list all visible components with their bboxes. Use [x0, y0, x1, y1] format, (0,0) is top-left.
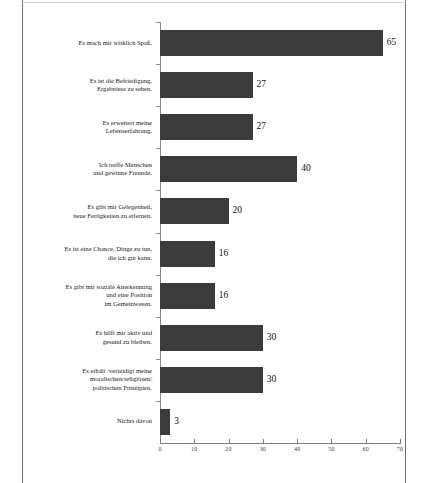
- x-axis-tick: [229, 439, 230, 444]
- bar-value-label: 16: [219, 249, 229, 259]
- x-axis-tick: [366, 439, 367, 444]
- bar-value-label: 16: [219, 291, 229, 301]
- y-axis-tick: [156, 22, 161, 23]
- y-axis-tick: [156, 317, 161, 318]
- y-axis-tick: [156, 148, 161, 149]
- category-label: Es ist eine Chance, Dinge zu tun, die ic…: [64, 245, 152, 262]
- bar-value-label: 3: [174, 417, 179, 427]
- x-axis-tick: [194, 439, 195, 444]
- y-axis-tick: [156, 106, 161, 107]
- bar-value-label: 27: [257, 122, 267, 132]
- bar: [160, 30, 383, 56]
- bar-value-label: 65: [387, 38, 397, 48]
- x-axis-tick-label: 30: [248, 446, 278, 452]
- x-axis-tick-label: 70: [385, 446, 415, 452]
- bar: [160, 114, 253, 140]
- bar-value-label: 20: [233, 206, 243, 216]
- x-axis-tick: [400, 439, 401, 444]
- category-label: Ich treffe Menschen und gewinne Freunde.: [93, 161, 152, 178]
- x-axis-tick-label: 60: [351, 446, 381, 452]
- y-axis-tick: [156, 233, 161, 234]
- category-label: Nichts davon: [117, 417, 152, 426]
- bar: [160, 325, 263, 351]
- bar: [160, 367, 263, 393]
- bar: [160, 283, 215, 309]
- category-label: Es hilft mir aktiv und gesund zu bleiben…: [96, 329, 152, 346]
- bar-value-label: 27: [257, 80, 267, 90]
- y-axis-tick: [156, 359, 161, 360]
- x-axis-tick-label: 10: [179, 446, 209, 452]
- x-axis-tick: [331, 439, 332, 444]
- bar: [160, 156, 297, 182]
- bar: [160, 72, 253, 98]
- category-label: Es erweitert meine Lebenserfahrung.: [103, 119, 152, 136]
- y-axis-tick: [156, 275, 161, 276]
- x-axis-tick: [263, 439, 264, 444]
- y-axis-tick: [156, 401, 161, 402]
- category-label: Es ist die Befriedigung, Ergebnisse zu s…: [90, 77, 152, 94]
- bar-value-label: 30: [267, 375, 277, 385]
- x-axis-tick-label: 40: [282, 446, 312, 452]
- bar: [160, 409, 170, 435]
- x-axis-tick: [297, 439, 298, 444]
- x-axis-tick-label: 0: [145, 446, 175, 452]
- category-label: Es mach mir wirklich Spaß.: [79, 39, 152, 48]
- y-axis-tick: [156, 190, 161, 191]
- y-axis-tick: [156, 64, 161, 65]
- x-axis-tick: [160, 439, 161, 444]
- category-label: Es erhält /verteidigt meine moralischen/…: [82, 367, 152, 393]
- bar: [160, 198, 229, 224]
- x-axis-tick-label: 50: [316, 446, 346, 452]
- bar-value-label: 30: [267, 333, 277, 343]
- bar: [160, 241, 215, 267]
- bar-chart: 6527274020161630303 Es mach mir wirklich…: [0, 0, 421, 483]
- category-label: Es gibt mir Gelegenheit, neue Fertigkeit…: [73, 203, 152, 220]
- bar-value-label: 40: [301, 164, 311, 174]
- category-label: Es gibt mir soziale Anerkennung und eine…: [66, 283, 152, 309]
- x-axis-tick-label: 20: [214, 446, 244, 452]
